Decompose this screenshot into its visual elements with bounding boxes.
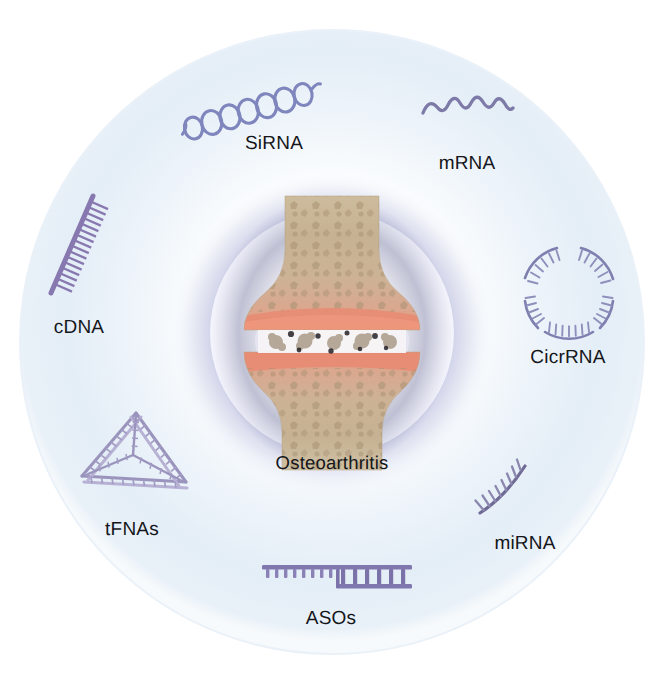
node-label-mrna: mRNA — [439, 153, 496, 175]
joint-space-debris — [258, 330, 406, 354]
node-label-mirna: miRNA — [494, 533, 555, 555]
center-label-osteoarthritis: Osteoarthritis — [276, 452, 389, 474]
node-label-tfnas: tFNAs — [105, 519, 159, 541]
node-label-cicrrna: CicrRNA — [530, 347, 605, 369]
node-label-cdna: cDNA — [54, 317, 104, 339]
node-label-sirna: SiRNA — [245, 133, 303, 155]
node-label-asos: ASOs — [306, 608, 356, 630]
